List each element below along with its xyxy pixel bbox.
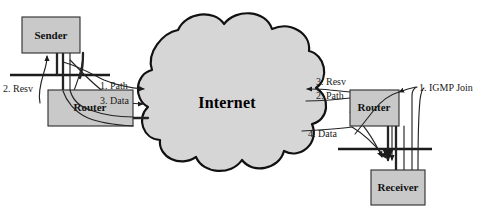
flow-label-resv-left: 2. Resv [3,83,33,94]
flow-label-path-right: 2. Path [316,90,344,101]
node-sender[interactable]: Sender [22,17,80,53]
node-receiver[interactable]: Receiver [371,170,425,205]
flow-arrow-resv-left [39,56,47,103]
flow-igmp-curve-a [412,87,417,170]
flow-label-resv-right: 3. Resv [316,76,346,87]
network-diagram: Internet Sender [0,0,480,215]
flow-label-data-left: 3. Data [100,95,129,106]
internet-cloud: Internet [138,13,326,171]
internet-cloud-label: Internet [198,94,256,111]
flow-label-data-right: 4. Data [308,128,337,139]
sender-label: Sender [35,29,68,41]
receiver-label: Receiver [378,181,419,193]
diagram-canvas: Internet Sender [0,0,480,215]
flow-igmp-curve-b [418,88,424,170]
flow-label-path-left: 1. Path [100,80,128,91]
flow-label-igmp-join: 1. IGMP Join [419,82,473,93]
